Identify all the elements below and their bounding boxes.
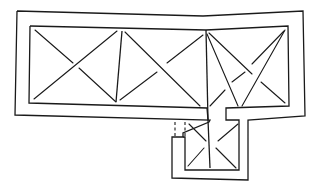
vault-rib-line (207, 34, 238, 106)
floor-plan-diagram (0, 0, 319, 195)
vault-rib-line (232, 72, 245, 82)
vault-rib-line (125, 32, 200, 106)
bay-divider (116, 31, 122, 102)
vault-rib-line (34, 31, 117, 99)
vault-rib-line (210, 90, 225, 106)
walls (15, 11, 305, 180)
inner-wall (30, 26, 289, 170)
vault-rib-line (242, 30, 285, 106)
vault-rib-line (167, 35, 203, 63)
bay-divider (208, 120, 210, 168)
vault-rib-line (188, 148, 204, 166)
bay-divider (206, 30, 208, 120)
vault-rib-line (216, 148, 236, 168)
vault-rib-line (261, 82, 285, 103)
vault-rib-line (218, 124, 238, 141)
outer-wall (15, 11, 305, 180)
vault-rib-line (35, 30, 73, 63)
vault-rib-line (79, 68, 116, 102)
vault-rib-line (120, 72, 157, 100)
